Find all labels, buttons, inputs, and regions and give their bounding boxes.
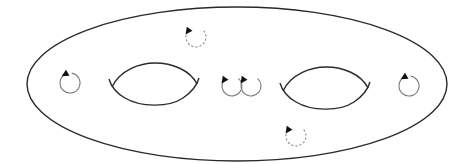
left-hole: [109, 63, 199, 105]
loop-center-b-arrowhead-icon: [241, 76, 248, 84]
left-hole-upper-curve: [112, 63, 197, 87]
right-hole-lower-curve: [280, 82, 370, 109]
outer-surface-outline: [27, 7, 447, 161]
oriented-loops: [60, 27, 419, 146]
loop-left-icon: [60, 70, 80, 93]
diagram-canvas: [0, 0, 475, 164]
genus-two-surface-diagram: [0, 0, 475, 164]
loop-center-b-icon: [241, 76, 261, 96]
loop-left-arrowhead-icon: [62, 70, 70, 77]
loop-bottom-dashed-icon: [286, 126, 306, 146]
loop-top-dashed-arrowhead-icon: [186, 27, 193, 35]
right-hole: [280, 67, 370, 109]
loop-right-icon: [399, 73, 419, 96]
loop-center-a-icon: [222, 76, 242, 96]
loop-top-dashed-icon: [186, 27, 206, 47]
left-hole-lower-curve: [109, 78, 199, 105]
loop-bottom-dashed-arrowhead-icon: [286, 126, 293, 134]
right-hole-upper-curve: [283, 67, 368, 91]
loop-right-arrowhead-icon: [401, 73, 409, 80]
loop-center-a-arrowhead-icon: [222, 76, 229, 84]
